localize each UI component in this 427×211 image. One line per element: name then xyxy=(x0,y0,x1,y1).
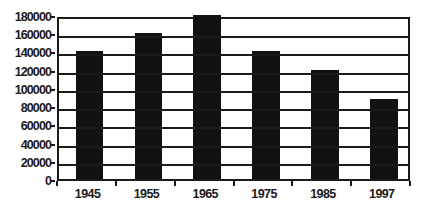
y-axis-tick-mark xyxy=(51,180,55,182)
x-axis-tick-mark xyxy=(409,181,411,186)
x-axis-tick-mark xyxy=(350,181,352,186)
y-axis-tick-mark xyxy=(51,34,55,36)
gridline xyxy=(59,36,408,38)
y-axis-tick-mark xyxy=(51,162,55,164)
bars-layer xyxy=(59,19,408,179)
y-axis-tick-label: 180000 xyxy=(15,11,51,24)
gridline xyxy=(59,73,408,75)
x-axis-tick-mark xyxy=(291,181,293,186)
y-axis-tick-label: 120000 xyxy=(15,65,51,78)
gridline xyxy=(59,146,408,148)
x-axis-tick-label: 1945 xyxy=(75,188,100,201)
x-axis-tick-label: 1985 xyxy=(310,188,335,201)
y-axis-tick-mark xyxy=(51,52,55,54)
x-axis: 194519551965197519851997 xyxy=(57,188,410,208)
gridline xyxy=(59,54,408,56)
gridline xyxy=(59,164,408,166)
x-axis-tick-mark xyxy=(233,181,235,186)
y-axis-tick-mark xyxy=(51,107,55,109)
y-axis-tick-label: 160000 xyxy=(15,29,51,42)
y-axis-tick-mark xyxy=(51,144,55,146)
bar xyxy=(76,51,104,179)
y-axis-tick-label: 80000 xyxy=(21,102,51,115)
y-axis-tick-mark xyxy=(51,71,55,73)
y-axis-tick-label: 140000 xyxy=(15,47,51,60)
gridline xyxy=(59,109,408,111)
y-axis-tick-label: 20000 xyxy=(21,157,51,170)
bar xyxy=(252,51,280,179)
y-axis-tick-mark xyxy=(51,16,55,18)
x-axis-tick-label: 1997 xyxy=(369,188,394,201)
x-axis-tick-label: 1975 xyxy=(251,188,276,201)
bar xyxy=(311,70,339,179)
y-axis-tick-mark xyxy=(51,125,55,127)
y-axis-tick-label: 40000 xyxy=(21,138,51,151)
x-axis-tick-label: 1955 xyxy=(134,188,159,201)
y-axis-tick-mark xyxy=(51,89,55,91)
plot-area xyxy=(57,17,410,181)
x-axis-tick-mark xyxy=(115,181,117,186)
gridline xyxy=(59,127,408,129)
bar-chart: 1800001600001400001200001000008000060000… xyxy=(0,0,427,211)
y-axis: 1800001600001400001200001000008000060000… xyxy=(0,17,55,181)
y-axis-tick-label: 60000 xyxy=(21,120,51,133)
gridline xyxy=(59,91,408,93)
y-axis-tick-label: 100000 xyxy=(15,84,51,97)
x-axis-tick-mark xyxy=(56,181,58,186)
bar xyxy=(193,15,221,179)
x-axis-tick-mark xyxy=(174,181,176,186)
x-axis-tick-label: 1965 xyxy=(193,188,218,201)
